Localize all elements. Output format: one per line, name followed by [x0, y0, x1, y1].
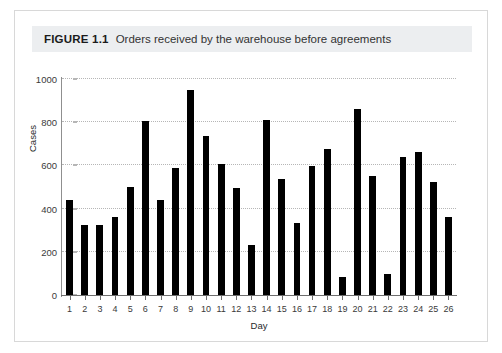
x-axis-tick-mark: [251, 295, 252, 300]
bar-slot: [198, 79, 213, 295]
x-axis-tick-mark: [403, 295, 404, 300]
x-axis-tick: [183, 295, 198, 301]
bar: [369, 176, 376, 295]
x-axis-tick: [395, 295, 410, 301]
x-axis-tick: [92, 295, 107, 301]
x-axis-tick-label: 24: [411, 302, 426, 316]
bar: [445, 217, 452, 295]
x-axis-tick-label: 4: [107, 302, 122, 316]
bar-slot: [214, 79, 229, 295]
bar: [142, 121, 149, 295]
bar-slot: [92, 79, 107, 295]
x-axis-tick: [289, 295, 304, 301]
x-axis-tick-label: 23: [395, 302, 410, 316]
bar: [294, 223, 301, 295]
x-axis-tick-mark: [267, 295, 268, 300]
y-axis-ticks: 02004006008001000: [16, 0, 57, 353]
x-axis-tick: [426, 295, 441, 301]
x-axis-tick-mark: [448, 295, 449, 300]
x-axis-tick-mark: [176, 295, 177, 300]
bar: [218, 164, 225, 295]
x-axis-tick-label: 21: [365, 302, 380, 316]
x-axis-tick-mark: [161, 295, 162, 300]
x-axis-tick: [198, 295, 213, 301]
bar: [66, 200, 73, 295]
x-axis-tick: [320, 295, 335, 301]
x-axis-tick: [244, 295, 259, 301]
x-axis-tick-label: 5: [123, 302, 138, 316]
x-axis-tick-mark: [191, 295, 192, 300]
x-axis-tick-mark: [312, 295, 313, 300]
bar-slot: [441, 79, 456, 295]
bar: [81, 225, 88, 295]
x-axis-tick-label: 15: [274, 302, 289, 316]
x-axis-tick-mark: [145, 295, 146, 300]
bar: [233, 188, 240, 295]
bar-slot: [426, 79, 441, 295]
bar-slot: [335, 79, 350, 295]
x-axis-tick-label: 25: [426, 302, 441, 316]
x-axis-tick: [123, 295, 138, 301]
x-axis-tick-mark: [358, 295, 359, 300]
x-axis-tick-mark: [206, 295, 207, 300]
x-axis-tick: [62, 295, 77, 301]
bar-slot: [183, 79, 198, 295]
x-axis-tick-label: 2: [77, 302, 92, 316]
x-axis-tick-label: 16: [289, 302, 304, 316]
bar-series: [62, 79, 456, 295]
bar-slot: [320, 79, 335, 295]
x-axis-tick: [305, 295, 320, 301]
bar: [309, 166, 316, 295]
bar-slot: [62, 79, 77, 295]
bar-slot: [411, 79, 426, 295]
bar-slot: [123, 79, 138, 295]
bar: [157, 200, 164, 295]
x-axis-tick-mark: [373, 295, 374, 300]
x-axis-tick-label: 20: [350, 302, 365, 316]
x-axis-tick-label: 13: [244, 302, 259, 316]
bar: [384, 274, 391, 295]
x-axis-tick-label: 8: [168, 302, 183, 316]
x-axis-tick-mark: [388, 295, 389, 300]
bar-chart: Cases 02004006008001000 1234567891011121…: [0, 0, 502, 353]
x-axis-title: Day: [62, 320, 456, 331]
bar-slot: [259, 79, 274, 295]
x-axis-tick: [107, 295, 122, 301]
x-axis-tick-label: 17: [305, 302, 320, 316]
x-axis-tick-label: 19: [335, 302, 350, 316]
bar-slot: [107, 79, 122, 295]
x-axis-tick-mark: [70, 295, 71, 300]
x-axis-tick-label: 11: [214, 302, 229, 316]
bar: [172, 168, 179, 295]
x-axis-tick-mark: [130, 295, 131, 300]
x-axis-tick-mark: [115, 295, 116, 300]
bar: [339, 277, 346, 295]
y-axis-tick-label: 600: [41, 160, 57, 171]
bar-slot: [138, 79, 153, 295]
x-axis-tick-mark: [282, 295, 283, 300]
x-axis-tick-mark: [100, 295, 101, 300]
x-axis-tick-mark: [236, 295, 237, 300]
x-axis-tick-label: 6: [138, 302, 153, 316]
x-axis-tick: [153, 295, 168, 301]
bar: [112, 217, 119, 295]
x-axis-tick-mark: [85, 295, 86, 300]
bar: [127, 187, 134, 295]
x-axis-tick-mark: [418, 295, 419, 300]
x-axis-tick: [365, 295, 380, 301]
x-axis-tick: [138, 295, 153, 301]
x-axis-tick: [411, 295, 426, 301]
bar: [400, 157, 407, 295]
bar: [96, 225, 103, 295]
bar-slot: [168, 79, 183, 295]
y-axis-tick-label: 0: [52, 290, 57, 301]
x-axis-tick-label: 10: [198, 302, 213, 316]
y-axis-tick-label: 1000: [36, 74, 57, 85]
x-axis-tick-label: 12: [229, 302, 244, 316]
bar: [430, 182, 437, 295]
bar: [203, 136, 210, 295]
x-axis-tick: [77, 295, 92, 301]
x-axis-tick-label: 22: [380, 302, 395, 316]
bar-slot: [77, 79, 92, 295]
x-axis-tick-label: 18: [320, 302, 335, 316]
